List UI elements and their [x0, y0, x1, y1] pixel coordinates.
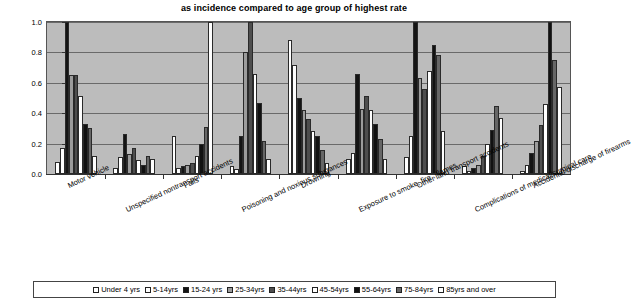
y-axis-tick-label: 0.6 — [32, 79, 42, 86]
legend-label: 25-34yrs — [235, 285, 264, 294]
bar-group — [279, 22, 337, 174]
y-axis-tick-label: 0.2 — [32, 140, 42, 147]
legend-label: 35-44yrs — [277, 285, 306, 294]
bar-group — [396, 22, 454, 174]
bar-group — [221, 22, 279, 174]
bar[interactable] — [557, 87, 562, 174]
bar-group — [163, 22, 221, 174]
legend-label: 85yrs and over — [446, 285, 496, 294]
y-axis-tick-label: 1.0 — [32, 19, 42, 26]
legend-swatch-icon — [312, 287, 318, 293]
legend-item[interactable]: 75-84yrs — [396, 285, 433, 294]
y-axis-tick-label: 0.8 — [32, 49, 42, 56]
legend-label: 5-14yrs — [153, 285, 178, 294]
legend-item[interactable]: 55-64yrs — [354, 285, 391, 294]
legend-swatch-icon — [227, 287, 233, 293]
legend-item[interactable]: 15-24 yrs — [183, 285, 222, 294]
bar-group — [512, 22, 570, 174]
bar-group — [47, 22, 105, 174]
legend-item[interactable]: 35-44yrs — [269, 285, 306, 294]
bar[interactable] — [266, 159, 271, 174]
legend-label: 75-84yrs — [404, 285, 433, 294]
chart-legend: Under 4 yrs5-14yrs15-24 yrs25-34yrs35-44… — [33, 281, 556, 298]
legend-item[interactable]: 85yrs and over — [438, 285, 496, 294]
chart-title: as incidence compared to age group of hi… — [0, 3, 588, 13]
legend-swatch-icon — [183, 287, 189, 293]
bar-group — [338, 22, 396, 174]
legend-item[interactable]: 45-54yrs — [312, 285, 349, 294]
legend-label: 55-64yrs — [362, 285, 391, 294]
legend-swatch-icon — [145, 287, 151, 293]
bar[interactable] — [383, 159, 388, 174]
legend-swatch-icon — [93, 287, 99, 293]
bar[interactable] — [208, 22, 213, 174]
bar[interactable] — [150, 159, 155, 174]
y-axis: 1.00.80.60.40.20.0 — [22, 14, 46, 182]
legend-item[interactable]: 25-34yrs — [227, 285, 264, 294]
legend-item[interactable]: 5-14yrs — [145, 285, 178, 294]
legend-label: 45-54yrs — [320, 285, 349, 294]
y-axis-tick-label: 0.4 — [32, 110, 42, 117]
x-axis-labels: Motor vehicleUnspecified nontransport ac… — [0, 175, 588, 270]
legend-item[interactable]: Under 4 yrs — [93, 285, 140, 294]
legend-swatch-icon — [396, 287, 402, 293]
legend-swatch-icon — [269, 287, 275, 293]
legend-swatch-icon — [438, 287, 444, 293]
legend-label: 15-24 yrs — [191, 285, 222, 294]
legend-label: Under 4 yrs — [101, 285, 140, 294]
legend-swatch-icon — [354, 287, 360, 293]
bar-group — [105, 22, 163, 174]
